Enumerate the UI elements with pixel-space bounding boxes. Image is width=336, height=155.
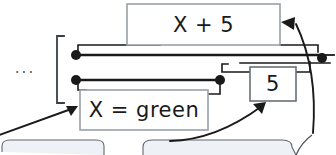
expression-block-shape (127, 4, 280, 45)
terminal-far-right-dot (317, 53, 327, 63)
variable-group-bracket (57, 36, 64, 103)
wire-five-left-rail (222, 64, 250, 72)
terminal-lower-left-dot (71, 75, 81, 85)
number-block-shape (250, 67, 296, 101)
assignment-block-shape (80, 90, 208, 130)
diagram-vector-layer (0, 0, 336, 155)
terminal-upper-left-dot (71, 50, 81, 60)
wire-expr-bottom-rail (280, 45, 318, 52)
callout-arrowhead-expression (281, 17, 295, 30)
block-shapes (80, 4, 296, 130)
wire-upper-stub (78, 45, 160, 55)
callout-arrow-to-assignment (0, 108, 74, 137)
callout-arrow-to-expression (296, 24, 314, 133)
background-panels (2, 135, 312, 155)
diagram-canvas: X + 5 X = green 5 ... (0, 0, 336, 155)
terminal-mid-right-dot (215, 75, 225, 85)
callout-arrowhead-number (253, 102, 266, 114)
